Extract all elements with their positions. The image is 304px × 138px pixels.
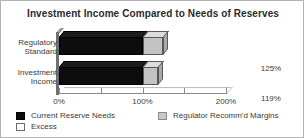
bar-segment-reserve-needs bbox=[59, 67, 143, 85]
x-axis-depth-riser bbox=[226, 87, 233, 94]
chart-legend: Current Reserve Needs Excess Regulator R… bbox=[1, 109, 304, 137]
x-axis-tick bbox=[143, 88, 144, 94]
x-axis-tick bbox=[101, 88, 102, 94]
chart-title: Investment Income Compared to Needs of R… bbox=[1, 8, 304, 19]
bar-side-face-margins bbox=[163, 31, 168, 55]
category-label-line1: Regulatory bbox=[0, 38, 57, 47]
legend-item-regulator-margins: Regulator Recomm'd Margins bbox=[158, 111, 279, 120]
bar-segment-reserve-needs bbox=[59, 37, 143, 55]
chart-container: Investment Income Compared to Needs of R… bbox=[0, 0, 304, 138]
category-label-line2: Standard bbox=[0, 47, 57, 56]
category-label-line2: Income bbox=[0, 77, 57, 86]
x-axis-tick-label: 0% bbox=[39, 97, 79, 106]
category-label-line1: Investment bbox=[0, 68, 57, 77]
legend-item-current-reserve-needs: Current Reserve Needs bbox=[16, 111, 115, 120]
bar-segment-margins bbox=[143, 67, 159, 85]
bar-segment-margins bbox=[143, 37, 164, 55]
value-label-investment-income: 119% bbox=[249, 94, 293, 103]
x-axis-tick bbox=[226, 88, 227, 94]
legend-label-excess: Excess bbox=[31, 122, 57, 131]
x-axis-back-line bbox=[64, 87, 231, 88]
legend-item-excess: Excess bbox=[16, 122, 57, 131]
x-axis-tick bbox=[184, 88, 185, 94]
legend-swatch-regulator-margins bbox=[158, 112, 167, 120]
legend-swatch-reserve-needs bbox=[16, 112, 25, 120]
legend-label-current-reserve-needs: Current Reserve Needs bbox=[31, 111, 115, 120]
plot-area: Regulatory Standard Investment Income 0% bbox=[1, 27, 304, 103]
value-label-regulatory-standard: 125% bbox=[249, 64, 293, 73]
legend-label-regulator-margins: Regulator Recomm'd Margins bbox=[173, 111, 279, 120]
category-label-regulatory-standard: Regulatory Standard bbox=[0, 38, 57, 56]
x-axis-tick-label: 200% bbox=[206, 97, 246, 106]
x-axis-tick-label: 100% bbox=[123, 97, 163, 106]
x-axis-tick bbox=[59, 88, 60, 94]
category-label-investment-income: Investment Income bbox=[0, 68, 57, 86]
legend-swatch-excess bbox=[16, 123, 25, 131]
bar-side-face-margins bbox=[158, 61, 163, 85]
